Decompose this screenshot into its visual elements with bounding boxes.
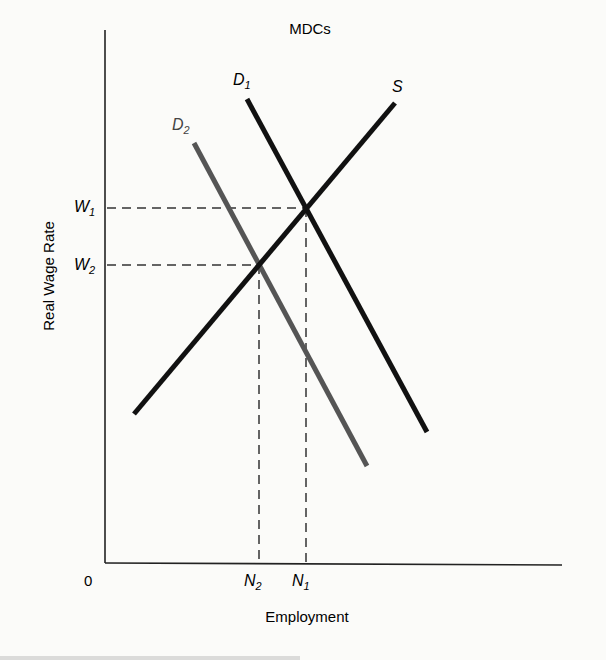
x-axis [105,563,562,565]
label-d1: D1 [233,71,251,91]
origin-label: 0 [84,572,92,589]
chart-canvas: MDCs D1 D2 S W1 W2 N2 N1 0 Employment Re… [0,0,606,660]
x-axis-label: Employment [265,608,349,625]
chart-title: MDCs [289,20,331,37]
demand-curve-d2 [194,143,367,466]
demand-curve-d1 [247,99,427,432]
label-n1: N1 [292,572,310,592]
supply-curve-s [134,103,395,414]
label-d2: D2 [172,116,190,136]
label-s: S [392,78,403,95]
label-w1: W1 [74,198,95,218]
y-axis-label: Real Wage Rate [40,221,57,331]
label-n2: N2 [244,572,262,592]
label-w2: W2 [74,256,95,276]
truncated-caption [0,656,300,660]
